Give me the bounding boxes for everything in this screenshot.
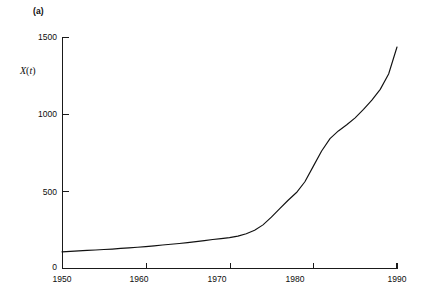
axes-group: [62, 37, 397, 269]
data-line-xt: [62, 47, 397, 252]
tick-marks-group: [63, 38, 398, 269]
figure-panel: (a) X(t) 1500 1000 500 0 1950 1960 1970 …: [0, 0, 423, 295]
plot-area: [0, 0, 423, 295]
